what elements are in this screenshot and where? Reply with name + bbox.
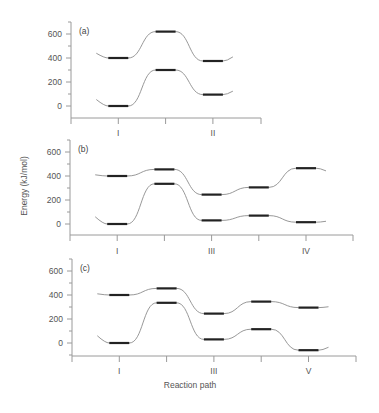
- y-tick-label: 200: [49, 314, 63, 324]
- x-axis-title: Reaction path: [164, 380, 217, 390]
- energy-curve-upper: [96, 32, 233, 61]
- x-tick-label: II: [211, 128, 216, 138]
- x-tick-label: III: [210, 366, 217, 376]
- y-tick-label: 400: [49, 290, 63, 300]
- y-tick-label: 200: [47, 195, 61, 205]
- x-tick-label: I: [118, 366, 120, 376]
- x-tick-label: I: [117, 128, 119, 138]
- energy-curve-upper: [95, 168, 326, 194]
- panel-label: (c): [80, 263, 90, 273]
- x-tick-label: III: [208, 246, 215, 256]
- energy-curve-lower: [97, 303, 328, 350]
- y-tick-label: 600: [49, 266, 63, 276]
- y-tick-label: 0: [57, 101, 62, 111]
- energy-diagram-chart: 0200400600III(a) 0200400600IIIIIV(b) 020…: [0, 0, 379, 413]
- x-tick-label: V: [306, 366, 312, 376]
- y-tick-label: 400: [47, 171, 61, 181]
- y-axis-title: Energy (kJ/mol): [19, 156, 29, 216]
- panel-c: 0200400600IIIIV(c): [49, 259, 356, 376]
- y-tick-label: 0: [56, 219, 61, 229]
- panel-label: (a): [79, 26, 90, 36]
- x-tick-label: I: [116, 246, 118, 256]
- y-tick-label: 0: [58, 338, 63, 348]
- energy-curve-lower: [95, 184, 326, 224]
- energy-curve-lower: [96, 70, 233, 106]
- energy-curve-upper: [97, 288, 328, 313]
- y-tick-label: 200: [48, 77, 62, 87]
- panel-label: (b): [78, 144, 89, 154]
- y-tick-label: 400: [48, 53, 62, 63]
- panel-a: 0200400600III(a): [48, 22, 261, 138]
- y-tick-label: 600: [48, 29, 62, 39]
- panel-b: 0200400600IIIIIV(b): [47, 140, 353, 256]
- x-tick-label: IV: [302, 246, 310, 256]
- y-tick-label: 600: [47, 147, 61, 157]
